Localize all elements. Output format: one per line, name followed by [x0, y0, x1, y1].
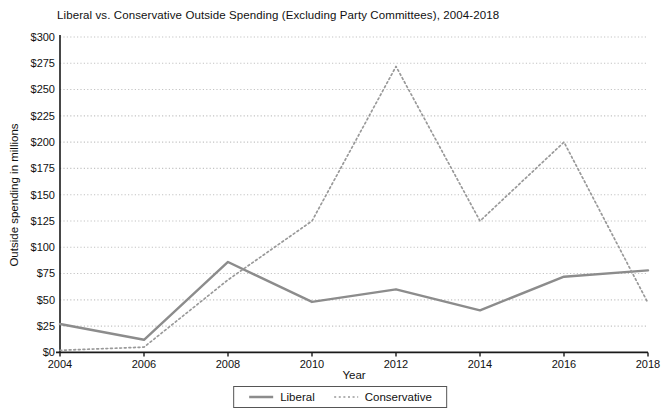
legend-label-liberal: Liberal — [280, 391, 315, 403]
y-tick-label: $225 — [31, 110, 55, 122]
y-tick-label: $200 — [31, 136, 55, 148]
chart-container: $0$25$50$75$100$125$150$175$200$225$250$… — [0, 0, 664, 411]
legend-item-liberal: Liberal — [248, 391, 315, 403]
y-tick-label: $175 — [31, 162, 55, 174]
legend: Liberal Conservative — [233, 386, 447, 408]
liberal-line — [60, 262, 648, 340]
liberal-line-swatch — [248, 392, 274, 402]
y-axis-label: Outside spending in millions — [8, 115, 20, 275]
y-tick-label: $50 — [37, 294, 55, 306]
chart-title: Liberal vs. Conservative Outside Spendin… — [57, 9, 499, 21]
y-tick-label: $25 — [37, 320, 55, 332]
y-tick-label: $125 — [31, 215, 55, 227]
legend-item-conservative: Conservative — [333, 391, 432, 403]
y-tick-label: $75 — [37, 267, 55, 279]
y-tick-label: $150 — [31, 189, 55, 201]
plot-area: $0$25$50$75$100$125$150$175$200$225$250$… — [0, 0, 664, 411]
conservative-line — [60, 66, 648, 350]
x-axis-label: Year — [60, 369, 648, 381]
y-tick-label: $275 — [31, 57, 55, 69]
y-tick-label: $300 — [31, 31, 55, 43]
y-tick-label: $250 — [31, 83, 55, 95]
y-tick-label: $0 — [43, 346, 55, 358]
y-tick-label: $100 — [31, 241, 55, 253]
legend-label-conservative: Conservative — [365, 391, 432, 403]
conservative-line-swatch — [333, 392, 359, 402]
